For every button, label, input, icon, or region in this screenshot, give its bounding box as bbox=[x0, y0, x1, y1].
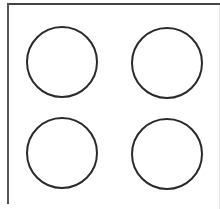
circle-top-right bbox=[131, 27, 203, 99]
frame-right-edge bbox=[219, 5, 220, 209]
frame-top-border bbox=[7, 3, 220, 5]
circle-bottom-right bbox=[131, 118, 203, 190]
circle-top-left bbox=[26, 26, 98, 98]
circle-bottom-left bbox=[26, 117, 98, 189]
frame-left-border bbox=[7, 3, 9, 204]
